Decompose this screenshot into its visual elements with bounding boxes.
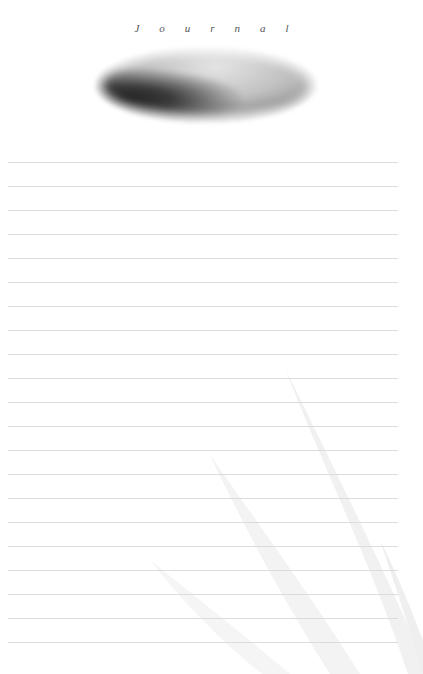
ruled-line — [8, 210, 398, 211]
ruled-line — [8, 474, 398, 475]
ruled-line — [8, 330, 398, 331]
landscape-header-image — [96, 48, 316, 122]
ruled-line — [8, 594, 398, 595]
ruled-line — [8, 546, 398, 547]
ruled-line — [8, 282, 398, 283]
ruled-line — [8, 426, 398, 427]
ruled-line — [8, 162, 398, 163]
ruled-line — [8, 354, 398, 355]
ruled-line — [8, 498, 398, 499]
ruled-line — [8, 378, 398, 379]
ruled-line — [8, 618, 398, 619]
journal-title: Journal — [0, 22, 423, 34]
ruled-line — [8, 186, 398, 187]
ruled-line — [8, 306, 398, 307]
ruled-line — [8, 570, 398, 571]
ruled-line — [8, 450, 398, 451]
ruled-line — [8, 258, 398, 259]
ruled-line — [8, 642, 398, 643]
ruled-line — [8, 234, 398, 235]
ruled-line — [8, 402, 398, 403]
ruled-line — [8, 522, 398, 523]
